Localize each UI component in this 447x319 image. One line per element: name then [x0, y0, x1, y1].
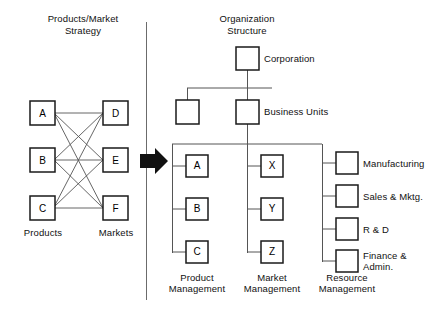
box-rm-finance — [336, 250, 358, 272]
diagram-canvas: Products/Market Strategy Organization St… — [0, 0, 447, 319]
label-product-c: C — [39, 204, 46, 214]
label-mm-y: Y — [269, 204, 276, 214]
product-market-links — [55, 113, 103, 208]
label-mm-x: X — [269, 161, 276, 171]
label-rm-finance: Finance & Admin. — [363, 250, 407, 272]
right-panel-boxes — [176, 47, 358, 272]
label-market-e: E — [112, 156, 119, 166]
box-rm-manufacturing — [336, 152, 358, 174]
left-panel-title: Products/Market Strategy — [48, 13, 119, 36]
label-corporation: Corporation — [264, 53, 315, 64]
caption-markets: Markets — [99, 227, 133, 238]
right-arrow-icon — [140, 148, 168, 174]
caption-market-management: Market Management — [244, 272, 300, 294]
box-rm-sales — [336, 185, 358, 207]
label-pm-a: A — [194, 161, 201, 171]
caption-products: Products — [24, 227, 62, 238]
caption-product-management: Product Management — [169, 272, 225, 294]
box-corporation — [236, 47, 259, 70]
right-panel-title: Organization Structure — [219, 13, 274, 36]
caption-resource-management: Resource Management — [319, 272, 375, 294]
label-market-d: D — [112, 109, 119, 119]
label-pm-c: C — [193, 247, 200, 257]
label-rm-rnd: R & D — [363, 224, 389, 235]
box-rm-rnd — [336, 218, 358, 240]
box-business-units — [236, 100, 259, 124]
label-market-f: F — [112, 204, 118, 214]
label-business-units: Business Units — [264, 106, 328, 117]
label-rm-sales: Sales & Mktg. — [363, 191, 423, 202]
label-product-a: A — [39, 109, 46, 119]
label-mm-z: Z — [269, 247, 275, 257]
box-sibling-unit — [176, 100, 199, 124]
label-rm-manufacturing: Manufacturing — [363, 158, 425, 169]
label-product-b: B — [39, 156, 46, 166]
label-pm-b: B — [194, 204, 201, 214]
